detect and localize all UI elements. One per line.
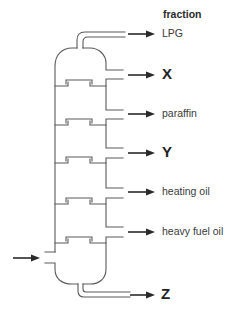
top-pipe-outer — [77, 32, 125, 48]
outlet-label: X — [162, 65, 172, 82]
arrow-head-icon — [146, 72, 155, 79]
arrow-head-icon — [146, 229, 155, 236]
arrow-head-icon — [146, 292, 155, 299]
outlet-heavy-fuel-oil: heavy fuel oil — [128, 225, 223, 237]
outlet-label: heavy fuel oil — [162, 225, 223, 237]
tray — [55, 198, 106, 204]
bottom-pipe-inner — [83, 284, 130, 292]
column-bottom-left — [45, 252, 78, 284]
fraction-header: fraction — [163, 8, 202, 20]
arrow-head-icon — [146, 150, 155, 157]
outlet-label: Z — [161, 285, 170, 302]
column-right-wall-segment — [106, 119, 123, 148]
outlet-paraffin: paraffin — [128, 107, 197, 119]
bottom-pipe-outer — [78, 284, 130, 297]
outlet-label: heating oil — [162, 185, 210, 197]
tray — [55, 119, 106, 125]
tray — [55, 157, 106, 163]
column-right-wall-segment — [106, 158, 123, 188]
feed-inlet-arrow — [13, 255, 40, 262]
outlet-x: X — [128, 65, 172, 82]
column-bottom-right — [83, 237, 123, 284]
column-dome-right — [83, 48, 123, 70]
distillation-diagram: fraction — [0, 0, 235, 309]
top-pipe-inner — [83, 37, 125, 48]
distillation-column — [45, 32, 130, 297]
outlet-heating-oil: heating oil — [128, 185, 210, 197]
arrow-head-icon — [146, 111, 155, 118]
outlet-label: paraffin — [162, 107, 197, 119]
outlet-label: Y — [162, 143, 172, 160]
tray — [55, 80, 106, 86]
outlet-y: Y — [128, 143, 172, 160]
tray — [55, 237, 106, 243]
arrow-head-icon — [146, 189, 155, 196]
column-right-wall-segment — [106, 198, 123, 227]
column-left-wall — [55, 48, 77, 252]
outlet-z: Z — [130, 285, 170, 302]
arrow-head-icon — [146, 31, 155, 38]
outlet-lpg: LPG — [128, 27, 183, 39]
outlet-label: LPG — [162, 27, 183, 39]
column-right-wall-segment — [106, 79, 123, 110]
